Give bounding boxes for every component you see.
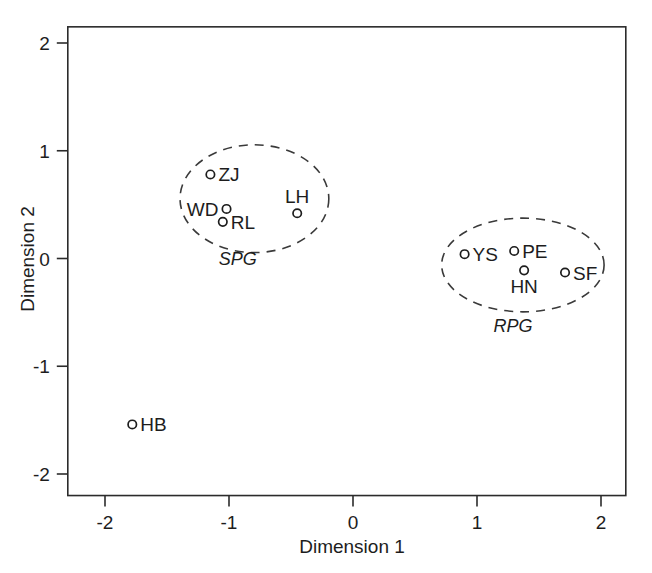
x-axis-title: Dimension 1 (299, 536, 405, 557)
cluster-label-spg: SPG (219, 249, 257, 269)
y-tick-label: -2 (33, 464, 50, 485)
data-point-rl (219, 218, 227, 226)
plot-canvas: -2-1012 -2-1012 ZJWDRLLHYSPEHNSFHB SPGRP… (0, 0, 652, 573)
x-axis-ticks: -2-1012 (97, 496, 607, 533)
y-tick-label: 0 (39, 249, 50, 270)
point-label-hn: HN (510, 276, 537, 297)
data-point-hn (520, 266, 528, 274)
y-tick-label: 1 (39, 141, 50, 162)
point-label-rl: RL (231, 212, 255, 233)
y-axis-title: Dimension 2 (17, 206, 38, 312)
point-label-hb: HB (140, 414, 166, 435)
y-axis-ticks: -2-1012 (33, 33, 68, 485)
data-point-pe (510, 247, 518, 255)
point-label-pe: PE (522, 241, 547, 262)
x-tick-label: -1 (221, 512, 238, 533)
data-point-sf (561, 268, 569, 276)
data-point-lh (293, 209, 301, 217)
point-label-sf: SF (573, 263, 597, 284)
y-tick-label: 2 (39, 33, 50, 54)
data-point-hb (128, 420, 136, 428)
x-tick-label: 1 (472, 512, 483, 533)
cluster-label-rpg: RPG (493, 316, 532, 336)
point-label-lh: LH (285, 186, 309, 207)
data-point-zj (206, 170, 214, 178)
point-label-ys: YS (473, 244, 498, 265)
x-tick-label: 0 (348, 512, 359, 533)
point-label-wd: WD (187, 199, 219, 220)
scatter-plot-figure: -2-1012 -2-1012 ZJWDRLLHYSPEHNSFHB SPGRP… (0, 0, 652, 573)
x-tick-label: 2 (596, 512, 607, 533)
point-label-zj: ZJ (218, 164, 239, 185)
data-points: ZJWDRLLHYSPEHNSFHB (128, 164, 597, 435)
y-tick-label: -1 (33, 356, 50, 377)
x-tick-label: -2 (97, 512, 114, 533)
data-point-wd (222, 205, 230, 213)
data-point-ys (460, 250, 468, 258)
